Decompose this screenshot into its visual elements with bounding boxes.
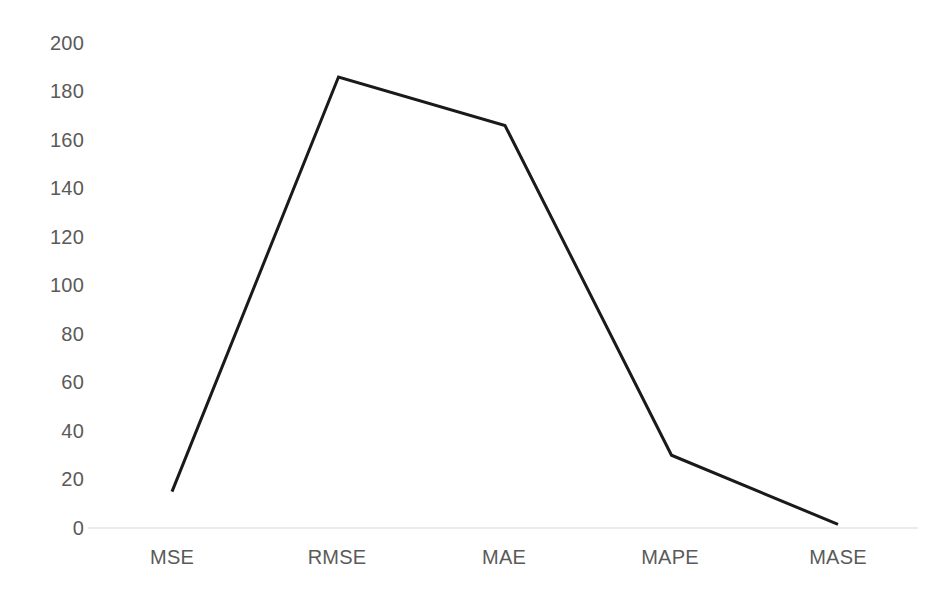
- y-tick-label: 20: [0, 469, 84, 489]
- y-tick-label: 140: [0, 178, 84, 198]
- y-tick-label: 200: [0, 33, 84, 53]
- y-tick-label: 80: [0, 324, 84, 344]
- x-tick-label-rmse: RMSE: [308, 545, 367, 569]
- y-axis: 200 180 160 140 120 100 80 60 40 20 0: [0, 0, 84, 605]
- plot-area: [88, 20, 918, 530]
- x-axis: MSE RMSE MAE MAPE MASE: [88, 545, 918, 579]
- x-tick-label-mape: MAPE: [641, 545, 698, 569]
- line-chart: 200 180 160 140 120 100 80 60 40 20 0 MS…: [0, 0, 949, 605]
- y-tick-label: 40: [0, 421, 84, 441]
- y-tick-label: 0: [0, 518, 84, 538]
- plot-svg: [88, 20, 918, 530]
- y-tick-label: 100: [0, 275, 84, 295]
- series-line: [172, 77, 838, 524]
- y-tick-label: 180: [0, 81, 84, 101]
- y-tick-label: 160: [0, 130, 84, 150]
- x-tick-label-mse: MSE: [150, 545, 194, 569]
- x-tick-label-mase: MASE: [809, 545, 866, 569]
- x-tick-label-mae: MAE: [482, 545, 526, 569]
- y-tick-label: 60: [0, 372, 84, 392]
- y-tick-label: 120: [0, 227, 84, 247]
